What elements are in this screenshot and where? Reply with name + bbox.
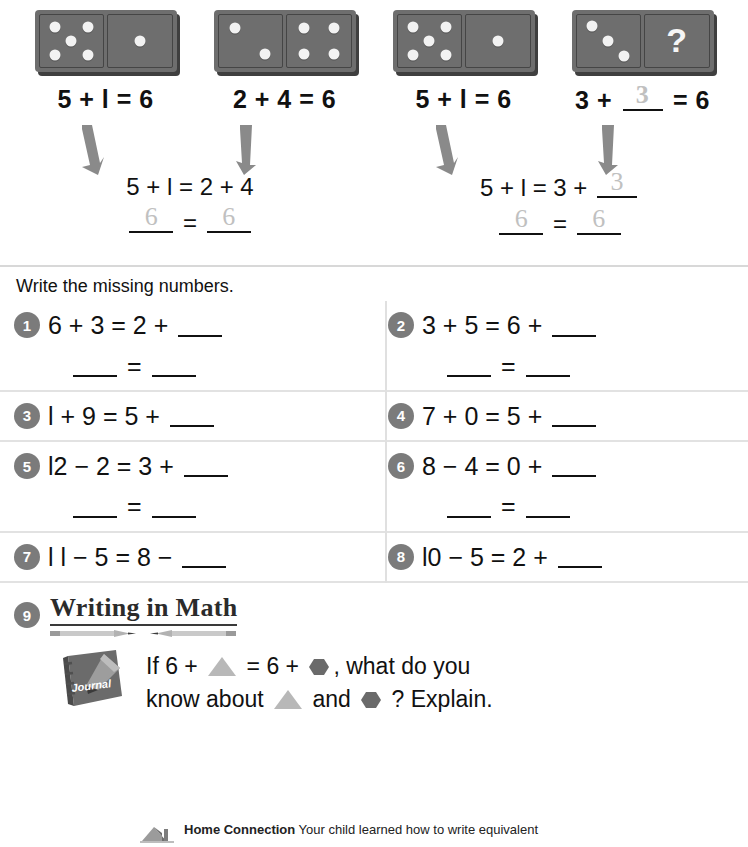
problem-badge: 6 (388, 453, 414, 479)
writing-in-math-prompt: If 6 + = 6 + , what do you know about an… (146, 646, 493, 717)
result-blank-left[interactable] (73, 351, 117, 377)
answer-blank[interactable] (558, 542, 602, 568)
steps-band: 5 + l = 2 + 4 6 = 6 5 + l = 3 + 3 6 = 6 (0, 115, 748, 265)
result-blank-right[interactable] (152, 351, 196, 377)
problem-line: 1 6 + 3 = 2 + (14, 310, 374, 340)
answer-blank[interactable]: 3 (597, 173, 637, 198)
problem-row: 3 l + 9 = 5 + 4 7 + 0 = 5 + (0, 392, 748, 440)
result-blank-left[interactable] (447, 491, 491, 517)
traced-answer: 3 (611, 169, 624, 195)
problem-second-line: = (388, 491, 748, 521)
home-connection: Home Connection Your child learned how t… (0, 821, 748, 847)
problem-expression: l2 − 2 = 3 + (48, 451, 231, 481)
expression-text: l + 9 = 5 + (48, 402, 167, 430)
result-blank-right[interactable]: 6 (577, 209, 621, 234)
problem-expression: l0 − 5 = 2 + (422, 542, 605, 572)
arrow-down-left-icon (232, 123, 258, 175)
answer-blank[interactable] (552, 310, 596, 336)
domino-half-right (107, 14, 173, 68)
result-blank-left[interactable]: 6 (129, 208, 173, 233)
problem-line: 2 3 + 5 = 6 + (388, 310, 748, 340)
pencil-decoration (50, 629, 237, 638)
step-group-left: 5 + l = 2 + 4 6 = 6 (70, 173, 310, 237)
answer-blank[interactable] (178, 310, 222, 336)
problem-badge: 4 (388, 403, 414, 429)
row-divider (0, 581, 748, 583)
problem-badge: 8 (388, 544, 414, 570)
prompt-text: ? Explain. (385, 686, 492, 712)
problem-expression: 7 + 0 = 5 + (422, 401, 599, 431)
expression-text: 6 + 3 = 2 + (48, 312, 175, 340)
problem-second-line: = (388, 351, 748, 381)
step-group-right: 5 + l = 3 + 3 6 = 6 (430, 173, 690, 238)
problem-expression: 8 − 4 = 0 + (422, 451, 599, 481)
answer-blank[interactable]: 3 (623, 85, 663, 111)
result-blank-right[interactable] (526, 491, 570, 517)
problem-line: 8 l0 − 5 = 2 + (388, 542, 748, 572)
prompt-text: know about (146, 686, 270, 712)
answer-blank[interactable] (170, 401, 214, 427)
domino-cell-4: ? 3 + 3 = 6 (559, 10, 727, 115)
problem-line: 3 l + 9 = 5 + (14, 401, 374, 431)
problem-second-line: = (14, 351, 374, 381)
problem-row: 1 6 + 3 = 2 + = 2 3 + 5 = 6 + = (0, 301, 748, 390)
problem-line: 7 l l − 5 = 8 − (14, 542, 374, 572)
domino-3-q: ? (572, 10, 714, 72)
step-result-2: 6 = 6 (430, 209, 690, 238)
domino-half-left (397, 14, 463, 68)
expression-text: 8 − 4 = 0 + (422, 452, 549, 480)
hexagon-icon (360, 690, 382, 710)
problem-badge: 3 (14, 403, 40, 429)
hexagon-icon (308, 657, 330, 677)
result-blank-left[interactable] (447, 351, 491, 377)
problem-cell-7: 7 l l − 5 = 8 − (0, 533, 374, 581)
problem-expression: 3 + 5 = 6 + (422, 310, 599, 340)
problem-second-line: = (14, 491, 374, 521)
arrow-down-right-icon (432, 123, 458, 175)
answer-blank[interactable] (552, 451, 596, 477)
journal-notebook-icon: Journal (58, 646, 132, 714)
result-blank-right[interactable] (526, 351, 570, 377)
prompt-text: and (306, 686, 357, 712)
grid-vertical-divider (385, 301, 387, 583)
result-blank-right[interactable] (152, 491, 196, 517)
problem-cell-5: 5 l2 − 2 = 3 + = (0, 442, 374, 531)
answer-blank[interactable] (184, 451, 228, 477)
answer-blank[interactable] (552, 401, 596, 427)
pencil-icon (146, 629, 236, 638)
expression-text: l2 − 2 = 3 + (48, 452, 181, 480)
domino-half-left (218, 14, 284, 68)
problem-row: 5 l2 − 2 = 3 + = 6 8 − 4 = 0 + = (0, 442, 748, 531)
expression-text: l l − 5 = 8 − (48, 543, 179, 571)
problem-line: 6 8 − 4 = 0 + (388, 451, 748, 481)
domino-equation-4: 3 + 3 = 6 (575, 85, 710, 115)
expression-text: 7 + 0 = 5 + (422, 402, 549, 430)
arrow-down-right-icon (78, 123, 104, 175)
prompt-text: = 6 + (240, 653, 305, 679)
domino-half-right (465, 14, 531, 68)
domino-half-right (286, 14, 352, 68)
problem-cell-8: 8 l0 − 5 = 2 + (374, 533, 748, 581)
writing-in-math-title-wrap: Writing in Math (50, 593, 237, 638)
problem-expression: l l − 5 = 8 − (48, 542, 229, 572)
traced-answer: 6 (145, 204, 158, 230)
problem-badge: 2 (388, 312, 414, 338)
domino-equation-2: 2 + 4 = 6 (233, 85, 336, 114)
prompt-text: , what do you (333, 653, 470, 679)
domino-half-left (576, 14, 642, 68)
directions-text: Write the missing numbers. (0, 267, 748, 301)
problem-grid: 1 6 + 3 = 2 + = 2 3 + 5 = 6 + = 3 l + 9 … (0, 301, 748, 583)
problem-cell-4: 4 7 + 0 = 5 + (374, 392, 748, 440)
equals-sign: = (553, 211, 567, 238)
answer-blank[interactable] (182, 542, 226, 568)
home-connection-body: Your child learned how to write equivale… (295, 822, 538, 837)
domino-cell-3: 5 + l = 6 (380, 10, 548, 114)
step-equation-1: 5 + l = 2 + 4 (70, 173, 310, 201)
home-connection-text: Home Connection Your child learned how t… (184, 821, 538, 839)
problem-badge: 5 (14, 453, 40, 479)
result-blank-left[interactable] (73, 491, 117, 517)
result-blank-left[interactable]: 6 (499, 209, 543, 234)
problem-cell-1: 1 6 + 3 = 2 + = (0, 301, 374, 390)
result-blank-right[interactable]: 6 (207, 208, 251, 233)
domino-row: 5 + l = 6 2 + 4 = 6 (0, 0, 748, 115)
